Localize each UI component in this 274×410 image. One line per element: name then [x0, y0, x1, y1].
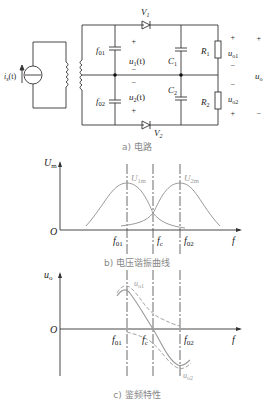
uo1-label: uo1	[228, 48, 238, 59]
uo2-minus: −	[230, 80, 235, 89]
tick-fc: fc	[157, 235, 163, 248]
tick-f01-c: f01	[112, 334, 122, 347]
curve-uo	[117, 290, 190, 366]
uo2-label: uo2	[228, 94, 238, 105]
tick-fc-c: fc	[142, 334, 148, 347]
curve-uo2	[127, 332, 191, 369]
r1-label: R1	[200, 46, 210, 57]
curve-uo1	[117, 286, 180, 326]
u1-minus: −	[131, 65, 136, 74]
u2-label: u2(t)	[129, 92, 145, 103]
diode-v2-label: V2	[154, 128, 163, 139]
uo-label: uo	[255, 71, 263, 82]
c1-label: C1	[168, 56, 177, 67]
junction-dot	[113, 73, 117, 77]
legend-u1m: U1m	[131, 173, 146, 184]
tick-f01: f01	[113, 235, 123, 248]
u2-plus: +	[131, 106, 136, 115]
source-label: is(t)	[4, 72, 16, 82]
circuit-a	[20, 21, 221, 129]
c2-label: C2	[168, 85, 177, 96]
cap-f02-label: f02	[96, 96, 105, 107]
graph-c-origin: O	[50, 324, 57, 335]
primary-coil-icon	[66, 62, 68, 88]
resistor-r1-icon	[215, 41, 221, 58]
legend-uo1: uo1	[134, 279, 144, 289]
caption-c: c) 鉴频特性	[113, 389, 160, 400]
r2-label: R2	[200, 97, 210, 108]
source-wire-top	[33, 42, 66, 62]
uo-plus: +	[256, 34, 261, 43]
legend-uo2: uo2	[183, 371, 193, 381]
graph-b-xlabel: f	[232, 235, 236, 246]
curve-u2m	[121, 183, 220, 226]
secondary-coil-icon	[80, 60, 82, 90]
uo-minus: −	[256, 109, 261, 118]
tick-f02-c: f02	[184, 334, 194, 347]
resistor-r2-icon	[215, 92, 221, 109]
cap-f01-label: f01	[96, 45, 105, 56]
graph-c	[58, 270, 242, 378]
graph-b-ylabel: Um	[44, 157, 57, 170]
graph-b-origin: O	[50, 226, 57, 237]
source-wire-bot	[33, 84, 66, 108]
uo1-minus: −	[230, 61, 235, 70]
u2-minus: −	[131, 78, 136, 87]
graph-b	[58, 161, 242, 256]
uo2-plus: +	[230, 109, 235, 118]
diagram-canvas: is(t) f01 f02 + u1(t) − − u2(t) + V1 V2 …	[0, 0, 274, 410]
caption-b: b) 电压谐振曲线	[104, 257, 170, 268]
diode-v1-label: V1	[141, 7, 150, 18]
junction-dot	[179, 73, 183, 77]
graph-c-ylabel: uo	[44, 269, 53, 282]
graph-c-xlabel: f	[232, 334, 236, 345]
curve-u1m	[86, 183, 185, 228]
caption-a: a) 电路	[122, 141, 152, 152]
u1-plus: +	[131, 37, 136, 46]
uo1-plus: +	[230, 33, 235, 42]
tick-f02: f02	[184, 235, 194, 248]
legend-u2m: U2m	[184, 173, 199, 184]
